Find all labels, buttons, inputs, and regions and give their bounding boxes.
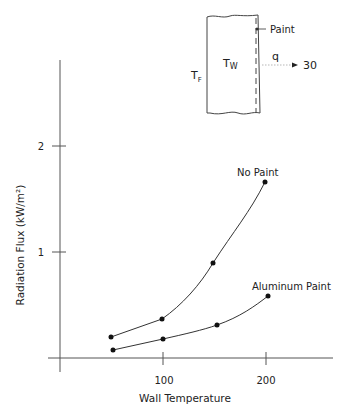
fluid-temp-label: TF <box>190 69 202 84</box>
y-tick-label-2: 2 <box>38 141 44 152</box>
figure: Paint TF TW q 30 2 1 100 200 Wall Tem <box>0 0 346 415</box>
y-axis-label: Radiation Flux (kW/m²) <box>14 185 26 306</box>
fluid-temp-subscript: F <box>198 76 202 84</box>
chart-canvas: Paint TF TW q 30 2 1 100 200 Wall Tem <box>0 0 346 415</box>
series-aluminum-paint: Aluminum Paint <box>111 281 331 353</box>
flux-arrow-head <box>292 63 298 68</box>
no-paint-point <box>263 180 268 185</box>
flux-label: q <box>272 50 279 63</box>
ambient-temp-label: 30 <box>303 59 317 72</box>
x-tick-label-200: 200 <box>256 375 275 386</box>
wall-temp-subscript: W <box>230 62 238 71</box>
aluminum-paint-point <box>266 294 271 299</box>
aluminum-paint-label: Aluminum Paint <box>252 281 331 292</box>
no-paint-point <box>109 335 114 340</box>
series-no-paint: No Paint <box>109 167 279 340</box>
no-paint-point <box>211 261 216 266</box>
aluminum-paint-point <box>161 337 166 342</box>
no-paint-point <box>160 317 165 322</box>
paint-label: Paint <box>270 24 295 35</box>
x-axis-label: Wall Temperature <box>139 392 231 404</box>
aluminum-paint-point <box>111 348 116 353</box>
x-tick-label-100: 100 <box>154 375 173 386</box>
aluminum-paint-curve <box>113 296 268 350</box>
axes: 2 1 100 200 Wall Temperature Radiation F… <box>14 60 333 404</box>
y-tick-label-1: 1 <box>38 247 44 258</box>
no-paint-label: No Paint <box>237 167 279 178</box>
aluminum-paint-point <box>215 323 220 328</box>
wall-diagram: Paint TF TW q 30 <box>190 15 317 114</box>
